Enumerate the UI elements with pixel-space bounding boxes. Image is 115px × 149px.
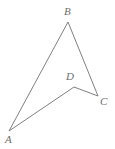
vertex-label-a: A bbox=[5, 134, 12, 145]
quadrilateral-abcd-svg bbox=[0, 0, 115, 149]
vertex-label-c: C bbox=[100, 96, 107, 107]
quadrilateral-abcd-outline bbox=[9, 22, 98, 131]
vertex-label-b: B bbox=[64, 6, 71, 17]
geometry-figure: B D C A bbox=[0, 0, 115, 149]
vertex-label-d: D bbox=[66, 71, 74, 82]
